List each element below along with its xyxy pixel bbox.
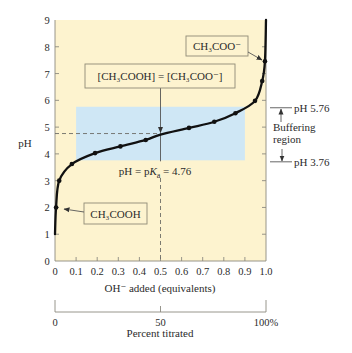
- y-tick-label: 4: [44, 149, 50, 160]
- x-tick-label: 0.7: [196, 266, 209, 277]
- x-tick-label: 0.1: [70, 266, 83, 277]
- x-tick-label: 0.8: [217, 266, 230, 277]
- y-tick-label: 5: [44, 122, 49, 133]
- percent-tick-label: 0: [52, 317, 57, 328]
- x-tick-label: 0.4: [133, 266, 147, 277]
- y-tick-label: 0: [44, 256, 49, 267]
- data-point-marker: [118, 144, 123, 149]
- data-point-marker: [187, 126, 192, 131]
- y-tick-label: 6: [44, 95, 49, 106]
- data-point-marker: [93, 151, 98, 156]
- titration-chart: 0123456789 00.10.20.30.40.50.60.70.80.91…: [0, 0, 352, 353]
- buffer-lower-label: pH 3.76: [294, 156, 330, 168]
- y-tick-label: 8: [44, 42, 49, 53]
- data-point-marker: [260, 79, 265, 84]
- x-tick-label: 0.6: [175, 266, 188, 277]
- data-point-marker: [54, 205, 59, 210]
- data-point-marker: [233, 111, 238, 116]
- buffer-label-line1: Buffering: [273, 121, 316, 133]
- buffer-upper-label: pH 5.76: [294, 102, 330, 114]
- acid-label: CH₃COOH: [90, 208, 140, 220]
- x-tick-label: 1.0: [259, 266, 272, 277]
- percent-tick-label: 100%: [254, 317, 279, 328]
- percent-axis-title: Percent titrated: [127, 327, 194, 339]
- data-point-marker: [143, 138, 148, 143]
- x-tick-label: 0.5: [154, 266, 167, 277]
- data-point-marker: [212, 119, 217, 124]
- acetate-label: CH₃COO⁻: [193, 40, 241, 52]
- data-point-marker: [57, 178, 62, 183]
- data-point-marker: [253, 99, 258, 104]
- x-tick-label: 0.3: [112, 266, 125, 277]
- pka-label-prefix: pH = p: [119, 165, 150, 177]
- y-axis-title: pH: [18, 137, 32, 149]
- data-point-marker: [70, 162, 75, 167]
- x-tick-label: 0.9: [238, 266, 251, 277]
- x-axis-title: OH⁻ added (equivalents): [105, 282, 216, 295]
- buffer-label-line2: region: [273, 133, 302, 145]
- x-tick-label: 0.2: [91, 266, 104, 277]
- y-tick-label: 7: [44, 69, 49, 80]
- y-tick-label: 3: [44, 176, 49, 187]
- data-point-marker: [263, 59, 268, 64]
- equality-label: [CH₃COOH] = [CH₃COO⁻]: [98, 70, 223, 82]
- y-tick-label: 9: [44, 15, 49, 26]
- y-tick-label: 1: [44, 229, 49, 240]
- y-tick-label: 2: [44, 202, 49, 213]
- pka-label-suffix: = 4.76: [160, 165, 191, 177]
- x-tick-label: 0: [52, 266, 57, 277]
